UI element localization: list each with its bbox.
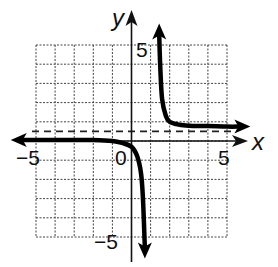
hyperbola-graph: y x 5 −5 −5 5 0 [0, 0, 278, 267]
y-min-tick-label: −5 [94, 230, 118, 253]
right-branch-curve [159, 33, 240, 126]
x-axis-label: x [251, 128, 265, 155]
x-min-tick-label: −5 [16, 146, 40, 169]
y-max-tick-label: 5 [136, 38, 148, 61]
x-max-tick-label: 5 [218, 146, 230, 169]
origin-label: 0 [115, 146, 127, 169]
y-axis-label: y [110, 4, 126, 31]
